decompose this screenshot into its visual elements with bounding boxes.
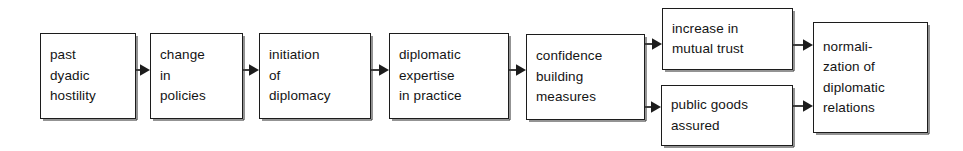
flow-node-label-line: diplomacy [269, 86, 365, 107]
arrow-connector-icon [509, 63, 526, 77]
arrow-connector-icon [243, 63, 259, 77]
flow-node-label-line: relations [823, 98, 922, 119]
flow-node-label-line: hostility [50, 86, 130, 107]
flow-node-increase-in-mutual-trust: increase inmutual trust [662, 8, 793, 70]
flow-node-label-line: in [160, 66, 237, 87]
flow-node-label-line: of [269, 66, 365, 87]
flow-node-public-goods-assured: public goodsassured [661, 85, 793, 146]
flow-node-label-line: building [536, 67, 639, 88]
flow-node-label-line: increase in [672, 19, 787, 40]
flow-node-label-line: measures [536, 87, 639, 108]
arrow-connector-icon [645, 37, 662, 51]
flow-node-diplomatic-expertise-in-practice: diplomaticexpertisein practice [389, 33, 509, 119]
flow-node-normalization-of-diplomatic-relations: normali-zation ofdiplomaticrelations [813, 22, 928, 133]
arrow-connector-icon [793, 99, 813, 113]
flow-node-label-line: dyadic [50, 66, 130, 87]
flow-node-label-line: mutual trust [672, 39, 787, 60]
flow-node-label-line: expertise [399, 66, 503, 87]
arrow-connector-icon [136, 63, 150, 77]
flow-node-initiation-of-diplomacy: initiationofdiplomacy [259, 33, 371, 119]
flow-node-label-line: diplomatic [399, 45, 503, 66]
flow-node-label-line: change [160, 45, 237, 66]
flow-node-past-dyadic-hostility: pastdyadichostility [40, 33, 136, 119]
flow-node-confidence-building-measures: confidencebuildingmeasures [526, 34, 645, 120]
flow-node-label-line: zation of [823, 57, 922, 78]
flow-node-label-line: confidence [536, 46, 639, 67]
arrow-connector-icon [371, 63, 389, 77]
flow-node-label-line: public goods [671, 95, 787, 116]
flow-node-label-line: assured [671, 116, 787, 137]
flow-node-label-line: normali- [823, 37, 922, 58]
arrow-connector-icon [645, 100, 661, 114]
flow-node-label-line: initiation [269, 45, 365, 66]
flow-node-label-line: policies [160, 86, 237, 107]
flow-node-label-line: past [50, 45, 130, 66]
flow-node-label-line: diplomatic [823, 78, 922, 99]
arrow-connector-icon [793, 38, 813, 52]
flow-node-change-in-policies: changeinpolicies [150, 33, 243, 119]
flowchart-diagram: pastdyadichostilitychangeinpoliciesiniti… [0, 0, 963, 151]
flow-node-label-line: in practice [399, 86, 503, 107]
